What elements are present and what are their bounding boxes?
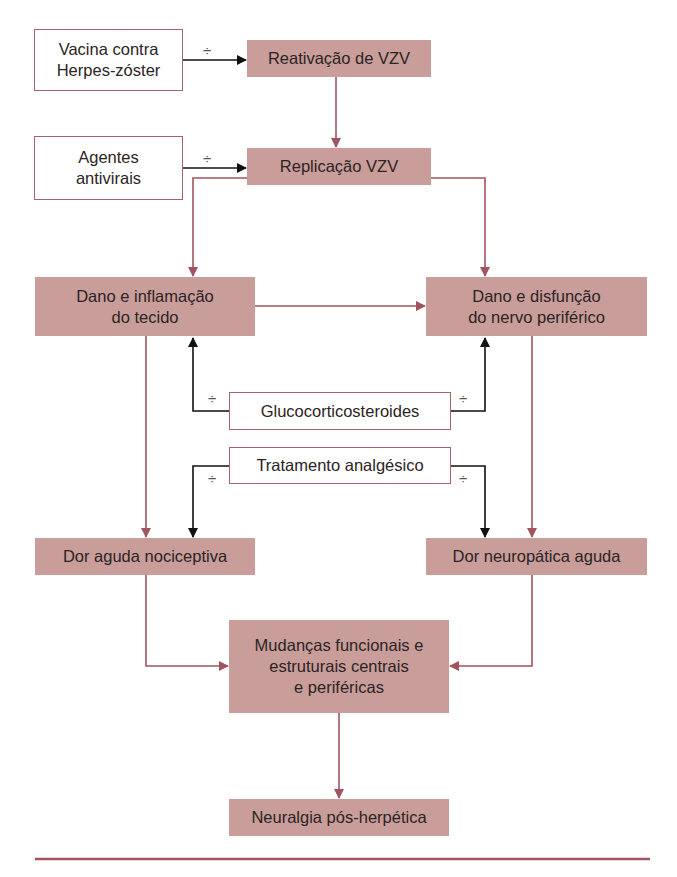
node-neuropathic-pain: Dor neuropática aguda (426, 538, 647, 575)
inhibit-sign: ÷ (459, 470, 467, 487)
inhibit-sign: ÷ (208, 390, 216, 407)
node-glucocorticoids: Glucocorticosteroides (229, 392, 451, 430)
node-phn: Neuralgia pós-herpética (229, 799, 449, 836)
connectors (0, 0, 677, 877)
node-vaccine: Vacina contra Herpes-zóster (34, 29, 183, 91)
node-reactivation: Reativação de VZV (247, 40, 431, 77)
node-analgesic: Tratamento analgésico (229, 447, 451, 484)
node-tissue-damage: Dano e inflamação do tecido (35, 277, 255, 336)
node-replication: Replicação VZV (247, 148, 431, 185)
inhibit-sign: ÷ (203, 42, 211, 59)
node-nociceptive-pain: Dor aguda nociceptiva (35, 538, 255, 575)
inhibit-sign: ÷ (459, 390, 467, 407)
inhibit-sign: ÷ (208, 470, 216, 487)
inhibit-sign: ÷ (203, 150, 211, 167)
node-nerve-damage: Dano e disfunção do nervo periférico (426, 277, 647, 336)
node-central-changes: Mudanças funcionais e estruturais centra… (229, 620, 449, 713)
node-antivirals: Agentes antivirais (34, 136, 183, 200)
